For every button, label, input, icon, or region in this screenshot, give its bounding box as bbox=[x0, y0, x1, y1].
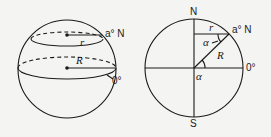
cross-section-diagram: N S r R α α a° N 0° bbox=[145, 6, 256, 129]
north-label: N bbox=[190, 6, 197, 17]
small-radius-label: r bbox=[80, 36, 85, 48]
big-radius-label: R bbox=[75, 54, 83, 66]
equator-label: 0° bbox=[246, 62, 256, 73]
latitude-circle-front bbox=[31, 39, 103, 46]
big-radius-label: R bbox=[216, 49, 224, 61]
latitude-diagram: r R a° N 0° N S r R α α a° N 0° bbox=[0, 0, 271, 137]
top-angle-label: α bbox=[203, 36, 209, 48]
equator-label: 0° bbox=[112, 75, 122, 86]
small-radius-label: r bbox=[209, 21, 214, 33]
latitude-label: a° N bbox=[105, 28, 125, 39]
sphere-diagram: r R a° N 0° bbox=[18, 20, 125, 118]
bottom-angle-arc bbox=[202, 60, 205, 68]
latitude-label: a° N bbox=[232, 24, 252, 35]
south-label: S bbox=[190, 118, 197, 129]
big-radius-line bbox=[194, 34, 229, 68]
top-angle-pointer bbox=[212, 41, 218, 43]
bottom-angle-label: α bbox=[196, 70, 202, 82]
top-angle-arc bbox=[218, 34, 221, 42]
